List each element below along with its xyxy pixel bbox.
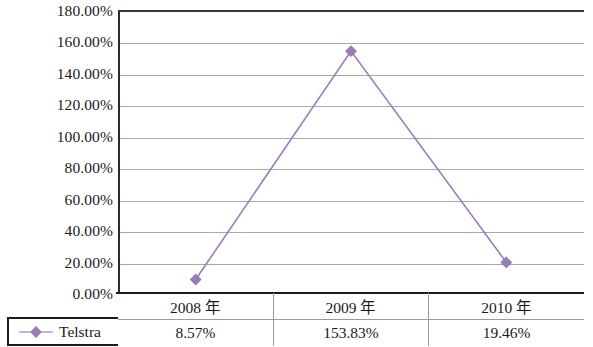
y-tick-label: 0.00%: [1, 286, 113, 301]
plot-area: [118, 10, 584, 293]
table-cell-value: 19.46%: [429, 320, 584, 347]
gridline: [120, 75, 584, 76]
gridline: [120, 169, 584, 170]
table-header-cell: 2010 年: [429, 293, 584, 320]
gridline: [120, 201, 584, 202]
gridline: [120, 106, 584, 107]
table-row: 8.57% 153.83% 19.46%: [118, 320, 584, 347]
data-table: 2008 年 2009 年 2010 年 8.57% 153.83% 19.46…: [118, 293, 584, 346]
y-tick-label: 180.00%: [1, 3, 113, 18]
y-tick-label: 40.00%: [1, 223, 113, 238]
chart-screenshot: 180.00% 160.00% 140.00% 120.00% 100.00% …: [0, 0, 593, 347]
table-header-cell: 2008 年: [118, 293, 273, 320]
y-tick-label: 100.00%: [1, 129, 113, 144]
diamond-marker-icon: [19, 325, 53, 339]
table-row-header: 2008 年 2009 年 2010 年: [118, 293, 584, 320]
table-header-cell: 2009 年: [273, 293, 428, 320]
y-axis-tick-labels: 180.00% 160.00% 140.00% 120.00% 100.00% …: [0, 0, 113, 300]
gridline: [120, 43, 584, 44]
y-tick-label: 160.00%: [1, 34, 113, 49]
gridline: [120, 138, 584, 139]
y-tick-label: 120.00%: [1, 97, 113, 112]
legend-label: Telstra: [59, 324, 101, 340]
gridline: [120, 264, 584, 265]
gridline: [120, 232, 584, 233]
legend: Telstra: [7, 317, 118, 346]
y-tick-label: 80.00%: [1, 160, 113, 175]
table-cell-value: 153.83%: [273, 320, 428, 347]
y-tick-label: 20.00%: [1, 255, 113, 270]
y-tick-label: 60.00%: [1, 192, 113, 207]
table-cell-value: 8.57%: [118, 320, 273, 347]
y-tick-label: 140.00%: [1, 66, 113, 81]
